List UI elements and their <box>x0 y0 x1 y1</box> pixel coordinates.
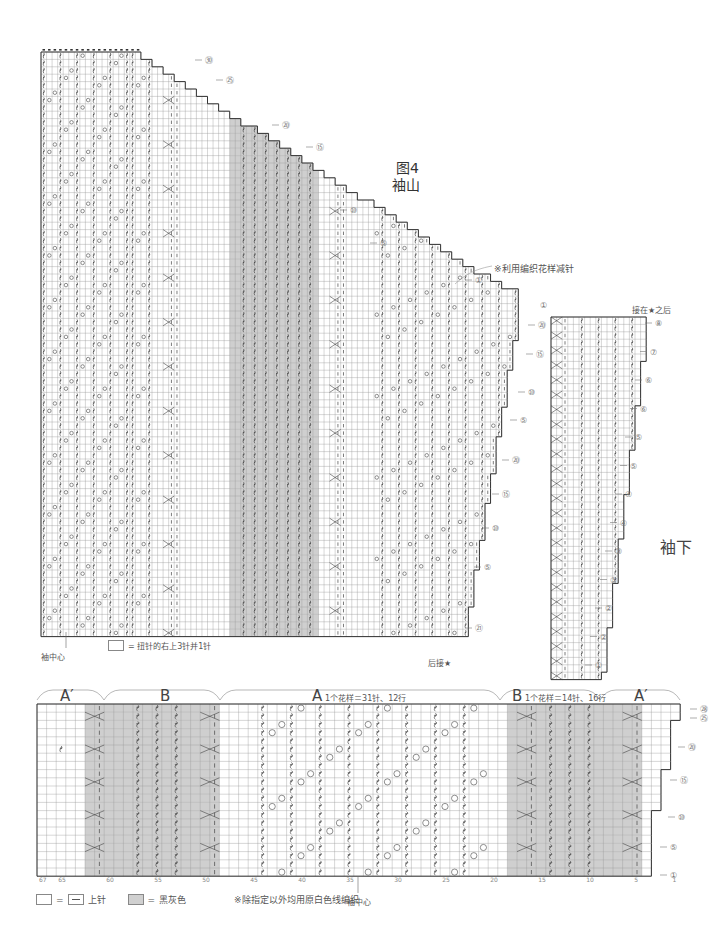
legend-twisted-decrease: = 扭针的右上3针并1针 <box>108 640 211 651</box>
sleeve-center-label: 袖中心 <box>41 651 65 662</box>
section-a-note: 1个花样＝31针、12行 <box>325 692 406 703</box>
svg-text:⑮: ⑮ <box>316 143 324 152</box>
svg-text:③: ③ <box>610 576 617 585</box>
svg-text:⑩: ⑩ <box>678 813 685 822</box>
svg-text:①: ① <box>540 301 547 310</box>
svg-text:⑤: ⑤ <box>380 239 387 248</box>
svg-text:⑤: ⑤ <box>670 843 677 852</box>
legend: = 上针 = 黑灰色 ※除指定以外均用原白色线编织 <box>36 893 359 906</box>
svg-text:20: 20 <box>490 876 498 883</box>
svg-text:65: 65 <box>58 876 66 883</box>
grey-cell-icon <box>128 894 144 905</box>
twisted-3-to-1-symbol-icon <box>108 640 124 651</box>
svg-text:①: ① <box>475 276 482 285</box>
svg-text:⑳: ⑳ <box>688 743 696 752</box>
blank-cell-icon <box>36 894 52 905</box>
legend-grey-label: 黑灰色 <box>159 893 186 906</box>
svg-text:55: 55 <box>154 876 162 883</box>
svg-text:15: 15 <box>538 876 546 883</box>
svg-text:①: ① <box>595 661 602 670</box>
svg-text:②: ② <box>600 633 607 642</box>
svg-text:35: 35 <box>346 876 354 883</box>
svg-text:①: ① <box>670 871 677 880</box>
section-b-note: 1个花样＝14针、16行 <box>525 692 606 703</box>
attach-after-label: 接在★之后 <box>632 304 671 315</box>
legend-note: ※除指定以外均用原白色线编织 <box>234 893 359 906</box>
svg-text:②: ② <box>605 604 612 613</box>
section-a-prime-right: A′ <box>634 687 648 705</box>
svg-text:③: ③ <box>615 547 622 556</box>
svg-text:⑤: ⑤ <box>484 563 491 572</box>
figure-subtitle: 袖山 <box>392 177 420 194</box>
svg-text:60: 60 <box>106 876 114 883</box>
svg-text:10: 10 <box>586 876 594 883</box>
decrease-note: ※利用编织花样减针 <box>494 262 574 275</box>
legend-equals: = <box>56 895 64 905</box>
legend-purl-label: 上针 <box>88 893 106 906</box>
svg-text:⑮: ⑮ <box>502 490 510 499</box>
svg-text:⑳: ⑳ <box>512 456 520 465</box>
svg-text:⑳: ⑳ <box>538 321 546 330</box>
figure-title: 图4 <box>396 160 419 177</box>
svg-text:⑩: ⑩ <box>528 388 535 397</box>
svg-text:④: ④ <box>620 519 627 528</box>
svg-text:⑤: ⑤ <box>630 462 637 471</box>
svg-text:㉑: ㉑ <box>475 624 483 633</box>
svg-text:⑦: ⑦ <box>650 348 657 357</box>
svg-text:⑥: ⑥ <box>645 376 652 385</box>
svg-text:⑤: ⑤ <box>520 416 527 425</box>
svg-text:30: 30 <box>394 876 402 883</box>
svg-text:⑳: ⑳ <box>282 121 290 130</box>
sleeve-lower-label: 袖下 <box>660 534 692 558</box>
svg-text:⑤: ⑤ <box>635 433 642 442</box>
svg-text:⑧: ⑧ <box>655 319 662 328</box>
section-a-prime-left: A′ <box>60 687 74 705</box>
svg-text:④: ④ <box>625 490 632 499</box>
svg-text:45: 45 <box>250 876 258 883</box>
svg-text:⑮: ⑮ <box>536 350 544 359</box>
svg-text:5: 5 <box>634 876 638 883</box>
purl-symbol-icon <box>68 894 84 905</box>
legend-equals-2: = <box>148 895 156 905</box>
attach-back-label: 后接★ <box>428 657 451 668</box>
svg-text:㉕: ㉕ <box>700 714 708 723</box>
svg-text:㉘: ㉘ <box>700 705 708 714</box>
section-b-right: B <box>512 687 522 705</box>
svg-text:25: 25 <box>442 876 450 883</box>
section-a: A <box>312 687 322 705</box>
svg-text:⑥: ⑥ <box>640 405 647 414</box>
svg-text:⑩: ⑩ <box>492 524 499 533</box>
legend-twisted-decrease-text: = 扭针的右上3针并1针 <box>128 640 211 651</box>
svg-text:㉕: ㉕ <box>226 76 234 85</box>
svg-text:㉚: ㉚ <box>205 56 213 65</box>
svg-text:⑩: ⑩ <box>350 206 357 215</box>
section-b-left: B <box>160 687 170 705</box>
svg-text:⑮: ⑮ <box>680 776 688 785</box>
sleeve-cap-chart: ㉚㉕⑳⑮⑩⑤①①⑳⑮⑩⑤⑳⑮⑩⑤㉑⑧⑦⑥⑥⑤⑤④④③③②②①6765605550… <box>0 0 727 948</box>
svg-text:67: 67 <box>39 876 47 883</box>
svg-text:50: 50 <box>202 876 210 883</box>
svg-text:40: 40 <box>298 876 306 883</box>
